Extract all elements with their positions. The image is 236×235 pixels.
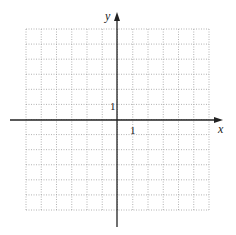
- x-axis-label: x: [217, 122, 224, 136]
- y-axis-arrow-icon: [114, 12, 120, 21]
- y-axis-label: y: [104, 9, 111, 23]
- y-tick-label: 1: [110, 100, 116, 112]
- coordinate-plane: x y 1 1: [0, 0, 236, 235]
- x-tick-label: 1: [130, 124, 136, 136]
